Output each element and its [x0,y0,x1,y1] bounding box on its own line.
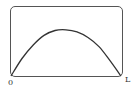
x-axis-start-label: 0 [8,79,13,87]
plot-area [0,0,131,88]
curve-line [11,30,121,76]
x-axis-end-label: L [125,76,130,84]
